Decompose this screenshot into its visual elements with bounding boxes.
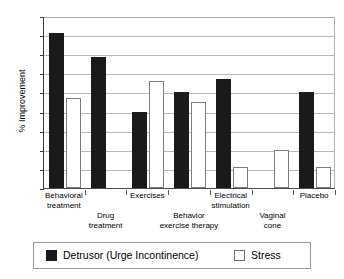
gridline [44, 36, 335, 37]
x-axis-separator [252, 190, 253, 195]
legend-item-detrusor: Detrusor (Urge Incontinence) [46, 249, 198, 261]
y-tick-mark [40, 74, 44, 75]
x-axis-label: Drugtreatment [74, 211, 137, 230]
x-axis-label-line: stimulation [199, 201, 262, 211]
bar-detrusor [91, 57, 106, 188]
gridline [44, 17, 335, 18]
bar-stress [191, 102, 206, 188]
x-axis-label-line: Vaginal [241, 211, 304, 221]
x-axis-separator [85, 190, 86, 195]
x-axis-separator [168, 190, 169, 195]
bar-detrusor [132, 112, 147, 188]
chart-legend: Detrusor (Urge Incontinence) Stress [33, 242, 311, 269]
y-tick-mark [40, 132, 44, 133]
bar-chart-figure: % Improvement 0102030405060708090 Behavi… [0, 0, 344, 279]
x-axis-label-line: Behavior [158, 211, 221, 221]
legend-label-stress: Stress [251, 249, 281, 261]
x-axis-label-line: cone [241, 221, 304, 231]
bar-stress [316, 167, 331, 188]
y-tick-mark [40, 93, 44, 94]
gridline [44, 93, 335, 94]
bar-stress [149, 81, 164, 188]
gridline [44, 170, 335, 171]
bar-detrusor [49, 33, 64, 188]
x-axis-separator [335, 190, 336, 195]
legend-label-detrusor: Detrusor (Urge Incontinence) [63, 249, 198, 261]
legend-swatch-detrusor-icon [46, 250, 57, 261]
y-tick-mark [40, 36, 44, 37]
x-axis-label-line: Drug [74, 211, 137, 221]
legend-swatch-stress-icon [234, 250, 245, 261]
bar-stress [274, 150, 289, 188]
bar-stress [233, 167, 248, 188]
x-axis-label: Behavioraltreatment [33, 191, 96, 210]
plot-right-border [334, 17, 335, 188]
x-axis-label: Behaviorexercise therapy [158, 211, 221, 230]
plot-inner: 0102030405060708090 [44, 17, 335, 188]
x-axis-label-line: treatment [74, 221, 137, 231]
x-axis-label: Electricalstimulation [199, 191, 262, 210]
x-axis-label-line: exercise therapy [158, 221, 221, 231]
gridline [44, 151, 335, 152]
x-axis-label-line: Electrical [199, 191, 262, 201]
y-tick-mark [40, 17, 44, 18]
x-axis-label-line: Exercises [116, 191, 179, 201]
bar-stress [66, 98, 81, 188]
gridline [44, 74, 335, 75]
plot-area: 0102030405060708090 [43, 17, 335, 189]
x-axis-label-line: treatment [33, 201, 96, 211]
y-axis-title: % Improvement [17, 31, 27, 171]
y-tick-mark [40, 55, 44, 56]
x-axis-label: Exercises [116, 191, 179, 201]
legend-item-stress: Stress [234, 249, 281, 261]
x-axis-labels: BehavioraltreatmentDrugtreatmentExercise… [43, 190, 335, 238]
x-axis-label: Vaginalcone [241, 211, 304, 230]
y-tick-mark [40, 113, 44, 114]
bar-detrusor [216, 79, 231, 188]
gridline [44, 132, 335, 133]
y-tick-mark [40, 170, 44, 171]
x-axis-label-line: Behavioral [33, 191, 96, 201]
bar-detrusor [299, 92, 314, 188]
gridline [44, 55, 335, 56]
bar-detrusor [174, 92, 189, 188]
gridline [44, 113, 335, 114]
y-tick-mark [40, 151, 44, 152]
